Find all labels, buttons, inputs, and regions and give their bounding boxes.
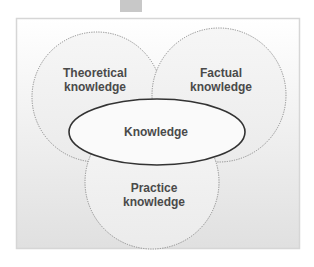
label-theoretical-line1: Theoretical — [63, 66, 127, 80]
label-theoretical-line2: knowledge — [64, 80, 126, 94]
diagram-canvas: Theoretical knowledge Factual knowledge … — [0, 0, 314, 267]
top-tab — [120, 0, 142, 12]
label-factual-line2: knowledge — [190, 80, 252, 94]
label-practice-line2: knowledge — [123, 195, 185, 209]
label-knowledge: Knowledge — [124, 125, 188, 139]
label-factual-line1: Factual — [200, 66, 242, 80]
label-practice-line1: Practice — [131, 181, 178, 195]
